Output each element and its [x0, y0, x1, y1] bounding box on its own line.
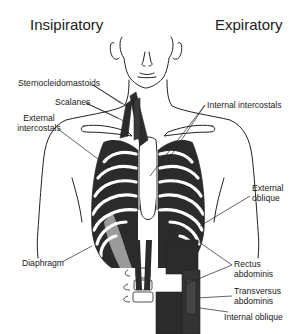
label-external-intercostals-line1: External — [14, 113, 64, 123]
label-rectus-abdominis-line1: Rectus — [234, 259, 273, 269]
label-external-oblique-line2: oblique — [252, 193, 284, 203]
label-sternocleidomastoids: Sternocleidomastoids — [18, 78, 100, 88]
label-rectus-abdominis-line2: abdominis — [234, 269, 273, 279]
head-outline — [110, 37, 181, 88]
neck-muscles — [120, 92, 148, 146]
label-scalanes: Scalanes — [55, 97, 90, 107]
label-transversus-abdominis-line2: abdominis — [234, 296, 281, 306]
heading-inspiratory: Insipiratory — [30, 16, 103, 33]
label-external-oblique: External oblique — [252, 183, 284, 203]
label-internal-oblique: Internal oblique — [224, 312, 283, 322]
label-external-oblique-line1: External — [252, 183, 284, 193]
respiratory-muscles-diagram: Insipiratory Expiratory Sternocleidomast… — [0, 0, 292, 334]
heading-expiratory: Expiratory — [215, 16, 283, 33]
label-external-intercostals: External intercostals — [14, 113, 64, 133]
label-internal-intercostals: Internal intercostals — [207, 100, 282, 110]
torso-illustration — [0, 0, 292, 334]
label-transversus-abdominis-line1: Transversus — [234, 286, 281, 296]
label-diaphragm: Diaphragm — [22, 258, 64, 268]
label-external-intercostals-line2: intercostals — [14, 123, 64, 133]
label-rectus-abdominis: Rectus abdominis — [234, 259, 273, 279]
label-transversus-abdominis: Transversus abdominis — [234, 286, 281, 306]
